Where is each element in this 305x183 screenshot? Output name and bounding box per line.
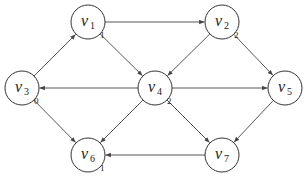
node-label: v <box>148 78 156 95</box>
node-subscript: 6 <box>90 153 95 164</box>
node-subscript: 1 <box>90 20 95 31</box>
node-v3: v30 <box>5 71 39 106</box>
node-subscript: 3 <box>24 86 29 97</box>
node-v6: v61 <box>71 138 105 173</box>
node-label: v <box>81 12 89 29</box>
node-v2: v22 <box>205 5 239 40</box>
node-v4: v42 <box>138 71 172 106</box>
node-subscript: 5 <box>287 86 292 97</box>
edge-v3-to-v6 <box>34 100 76 142</box>
node-layer: v11v22v30v42v5v61v7 <box>5 5 302 173</box>
node-subscript: 2 <box>224 20 229 31</box>
edge-v2-to-v4 <box>167 34 209 76</box>
node-tag: 1 <box>100 163 105 173</box>
node-v1: v11 <box>71 5 105 40</box>
node-label: v <box>15 78 23 95</box>
node-tag: 2 <box>234 30 239 40</box>
graph-diagram: v11v22v30v42v5v61v7 <box>0 0 305 183</box>
edge-v4-to-v7 <box>167 100 210 143</box>
node-label: v <box>278 78 286 95</box>
node-subscript: 7 <box>224 153 229 164</box>
node-subscript: 4 <box>157 86 162 97</box>
node-tag: 1 <box>100 30 105 40</box>
node-v5: v5 <box>268 71 302 105</box>
edge-v1-to-v4 <box>100 34 142 76</box>
edge-v3-to-v1 <box>34 34 76 76</box>
edge-v4-to-v6 <box>100 100 143 143</box>
node-tag: 0 <box>34 96 39 106</box>
node-label: v <box>215 12 223 29</box>
node-v7: v7 <box>205 138 239 172</box>
node-label: v <box>215 145 223 162</box>
edge-v2-to-v5 <box>234 34 273 75</box>
edge-v5-to-v7 <box>234 100 273 142</box>
node-label: v <box>81 145 89 162</box>
node-tag: 2 <box>167 96 172 106</box>
